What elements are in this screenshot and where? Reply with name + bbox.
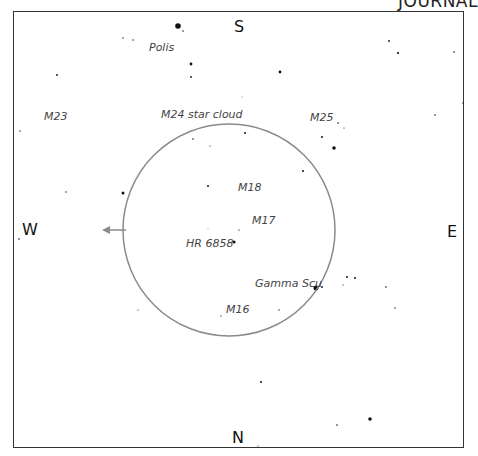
star-icon xyxy=(397,52,399,54)
label-polis: Polis xyxy=(149,41,174,54)
star-icon xyxy=(368,417,372,421)
star-icon xyxy=(182,30,184,32)
star-icon xyxy=(385,286,387,288)
star-icon xyxy=(132,39,133,40)
star-icon xyxy=(302,170,304,172)
star-icon xyxy=(175,23,181,29)
faint-star-icon xyxy=(241,96,243,98)
star-icon xyxy=(19,130,20,131)
direction-west: W xyxy=(22,220,38,239)
star-icon xyxy=(336,424,338,426)
star-icon xyxy=(388,40,390,42)
star-icon xyxy=(122,37,123,38)
faint-star-icon xyxy=(220,315,222,317)
label-hr-6858: HR 6858 xyxy=(186,237,233,250)
star-icon xyxy=(278,309,279,310)
star-icon xyxy=(394,307,395,308)
star-icon xyxy=(122,192,125,195)
faint-star-icon xyxy=(238,229,240,231)
label-m18: M18 xyxy=(238,181,262,194)
star-icon xyxy=(18,238,20,240)
star-icon xyxy=(260,381,262,383)
label-m24-star-cloud: M24 star cloud xyxy=(161,108,243,121)
star-icon xyxy=(321,136,323,138)
star-icon xyxy=(453,51,455,53)
star-icon xyxy=(279,71,282,74)
label-gamma-scu: Gamma Scu xyxy=(255,277,322,290)
star-icon xyxy=(56,74,58,76)
star-icon xyxy=(343,127,344,128)
star-icon xyxy=(244,132,246,134)
star-icon xyxy=(332,146,336,150)
star-icon xyxy=(190,63,193,66)
star-icon xyxy=(209,145,210,146)
label-m23: M23 xyxy=(44,110,68,123)
label-m16: M16 xyxy=(226,303,250,316)
star-icon xyxy=(257,445,258,446)
direction-north: N xyxy=(232,428,244,447)
star-icon xyxy=(337,122,339,124)
star-icon xyxy=(354,277,356,279)
faint-star-icon xyxy=(207,228,208,229)
star-icon xyxy=(346,276,348,278)
direction-south: S xyxy=(234,17,244,36)
star-icon xyxy=(342,284,343,285)
star-icon xyxy=(207,185,209,187)
star-icon xyxy=(462,102,463,103)
star-icon xyxy=(192,138,194,140)
label-m25: M25 xyxy=(310,111,334,124)
star-icon xyxy=(434,114,436,116)
star-icon xyxy=(65,191,66,192)
star-icon xyxy=(190,76,192,78)
star-icon xyxy=(137,309,138,310)
star-field xyxy=(18,23,464,446)
direction-east: E xyxy=(447,222,457,241)
label-m17: M17 xyxy=(252,214,276,227)
